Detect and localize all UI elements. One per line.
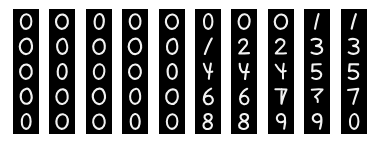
digit-glyph-3 <box>341 34 367 59</box>
digit-glyph-0 <box>231 9 257 34</box>
digit-tile <box>231 109 257 134</box>
digit-tile <box>304 34 330 59</box>
digit-tile <box>86 59 112 84</box>
digit-glyph-6 <box>195 84 221 109</box>
digit-tile <box>13 84 39 109</box>
digit-tile <box>304 109 330 134</box>
digit-tile <box>49 59 75 84</box>
digit-tile <box>13 59 39 84</box>
digit-glyph-0 <box>49 84 75 109</box>
digit-tile <box>195 34 221 59</box>
digit-glyph-0 <box>13 9 39 34</box>
digit-tile <box>159 59 185 84</box>
digit-glyph-7 <box>341 84 367 109</box>
digit-tile <box>86 109 112 134</box>
digit-glyph-0 <box>49 9 75 34</box>
digit-glyph-0 <box>49 34 75 59</box>
digit-tile <box>231 84 257 109</box>
digit-glyph-5 <box>304 59 330 84</box>
digit-glyph-1 <box>195 34 221 59</box>
digit-tile <box>86 84 112 109</box>
digit-glyph-8 <box>195 109 221 134</box>
digit-tile <box>268 84 294 109</box>
digit-tile <box>159 109 185 134</box>
digit-glyph-0 <box>159 59 185 84</box>
digit-tile <box>13 109 39 134</box>
digit-glyph-0 <box>159 84 185 109</box>
digit-tile <box>268 9 294 34</box>
digit-glyph-1 <box>341 9 367 34</box>
digit-glyph-0 <box>13 59 39 84</box>
digit-tile <box>159 9 185 34</box>
digit-tile <box>49 109 75 134</box>
digit-glyph-4 <box>268 59 294 84</box>
digit-glyph-0 <box>86 59 112 84</box>
digit-glyph-3 <box>304 34 330 59</box>
digit-glyph-0 <box>13 84 39 109</box>
digit-glyph-0 <box>13 109 39 134</box>
digit-glyph-7 <box>268 84 294 109</box>
digit-tile <box>86 34 112 59</box>
digit-tile <box>195 84 221 109</box>
digit-glyph-0 <box>122 59 148 84</box>
digit-glyph-0 <box>195 9 221 34</box>
digit-glyph-9 <box>304 109 330 134</box>
digit-tile <box>341 34 367 59</box>
digit-glyph-9 <box>268 109 294 134</box>
digit-glyph-5 <box>341 59 367 84</box>
digit-tile <box>195 59 221 84</box>
digit-glyph-0 <box>49 59 75 84</box>
digit-tile <box>231 34 257 59</box>
digit-glyph-6 <box>231 84 257 109</box>
digit-tile <box>122 34 148 59</box>
digit-tile <box>341 84 367 109</box>
digit-glyph-0 <box>159 34 185 59</box>
digit-tile <box>122 9 148 34</box>
digit-glyph-0 <box>159 9 185 34</box>
digit-glyph-0 <box>159 109 185 134</box>
digit-glyph-0 <box>49 109 75 134</box>
digit-tile <box>122 59 148 84</box>
digit-tile <box>122 109 148 134</box>
digit-tile <box>122 84 148 109</box>
digit-tile <box>304 9 330 34</box>
digit-glyph-0 <box>13 34 39 59</box>
digit-tile <box>195 109 221 134</box>
digit-glyph-1 <box>304 9 330 34</box>
digit-tile <box>49 34 75 59</box>
digit-glyph-2 <box>268 34 294 59</box>
digit-tile <box>304 59 330 84</box>
digit-glyph-7 <box>304 84 330 109</box>
digit-glyph-0 <box>86 9 112 34</box>
digit-tile <box>195 9 221 34</box>
digit-glyph-0 <box>86 84 112 109</box>
digit-tile <box>231 9 257 34</box>
digit-tile <box>304 84 330 109</box>
digit-glyph-0 <box>86 34 112 59</box>
digit-glyph-0 <box>122 9 148 34</box>
digit-glyph-0 <box>122 109 148 134</box>
digit-glyph-8 <box>231 109 257 134</box>
digit-tile-grid <box>13 9 367 134</box>
digit-tile <box>268 59 294 84</box>
digit-tile <box>49 84 75 109</box>
digit-tile <box>159 34 185 59</box>
digit-tile <box>13 34 39 59</box>
digit-sample-figure <box>0 0 390 146</box>
digit-tile <box>268 34 294 59</box>
digit-glyph-0 <box>268 9 294 34</box>
digit-glyph-2 <box>231 34 257 59</box>
digit-glyph-0 <box>341 109 367 134</box>
digit-glyph-0 <box>86 109 112 134</box>
digit-tile <box>13 9 39 34</box>
digit-glyph-0 <box>122 84 148 109</box>
digit-tile <box>341 109 367 134</box>
digit-tile <box>86 9 112 34</box>
digit-tile <box>231 59 257 84</box>
digit-glyph-4 <box>195 59 221 84</box>
digit-tile <box>268 109 294 134</box>
digit-tile <box>341 9 367 34</box>
digit-glyph-4 <box>231 59 257 84</box>
digit-tile <box>341 59 367 84</box>
digit-tile <box>49 9 75 34</box>
